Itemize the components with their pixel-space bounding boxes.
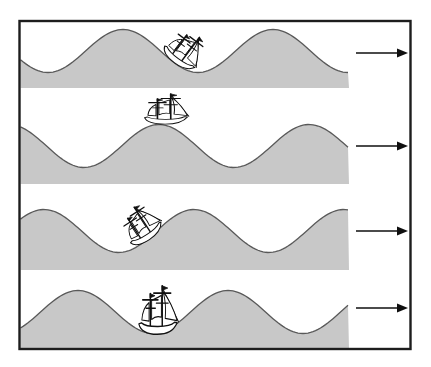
figure-canvas <box>0 0 431 367</box>
wave-body <box>21 291 350 350</box>
arrow-head-icon <box>397 226 408 235</box>
wave-body <box>21 210 350 270</box>
wave-panel-snapshot-4 <box>21 286 409 349</box>
wave-direction-arrow <box>356 141 408 150</box>
wave-panel-snapshot-2 <box>21 94 409 184</box>
wave-body <box>21 125 350 184</box>
wave-direction-arrow <box>356 226 408 235</box>
arrow-head-icon <box>397 48 408 57</box>
wave-direction-arrow <box>356 303 408 312</box>
arrow-head-icon <box>397 303 408 312</box>
ship-icon-upright-on-crest <box>145 94 189 124</box>
wave-panel-snapshot-3 <box>21 199 409 270</box>
wave-panel-snapshot-1 <box>21 24 409 88</box>
wave-ship-figure <box>0 0 431 367</box>
wave-direction-arrow <box>356 48 408 57</box>
arrow-head-icon <box>397 141 408 150</box>
wave-panels <box>21 24 409 349</box>
ship-icon-upright-in-trough <box>139 286 179 334</box>
